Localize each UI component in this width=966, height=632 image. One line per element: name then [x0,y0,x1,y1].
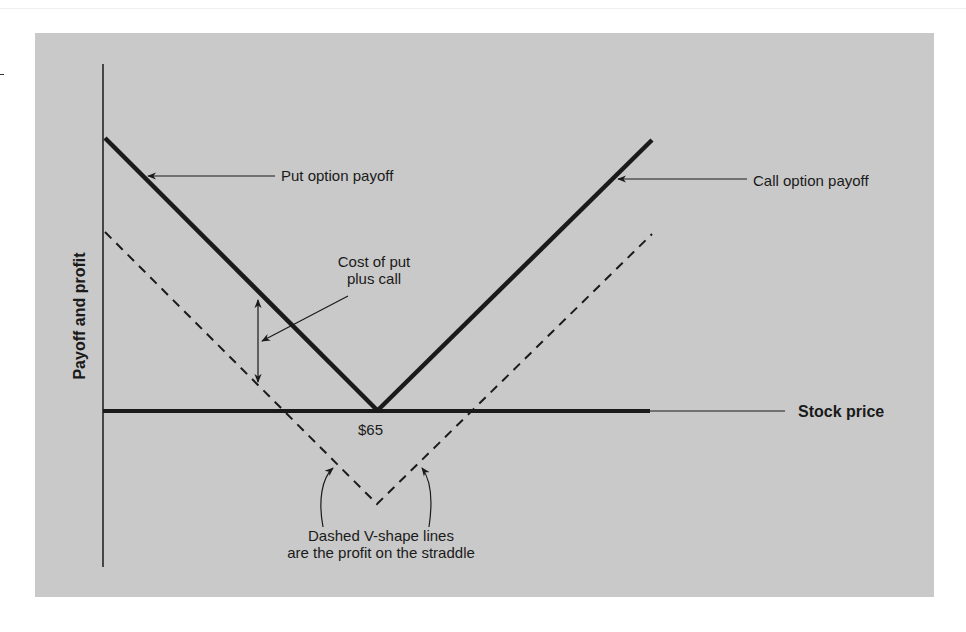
dashed-lines-label: Dashed V-shape lines are the profit on t… [256,527,506,561]
dashed-label-line1: Dashed V-shape lines [256,527,506,544]
y-axis-label: Payoff and profit [71,252,89,379]
dashed-right-arrow [422,468,431,527]
strike-price-label: $65 [358,421,383,438]
dashed-left-arrow [321,468,333,527]
dashed-label-line2: are the profit on the straddle [256,544,506,561]
put-payoff-label: Put option payoff [281,167,393,184]
call-payoff-label: Call option payoff [753,172,869,189]
x-axis-label: Stock price [798,403,884,420]
cost-label-line1: Cost of put [329,253,419,270]
cost-pointer-arrow [262,296,348,341]
cost-label-line2: plus call [329,270,419,287]
cost-label: Cost of put plus call [329,253,419,287]
